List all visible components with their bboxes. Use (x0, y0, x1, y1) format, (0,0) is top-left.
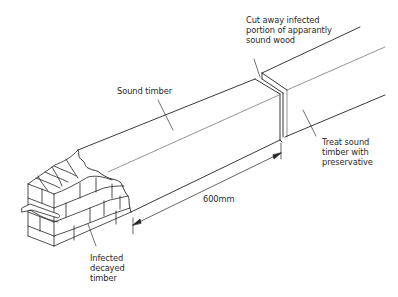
dimension-line (133, 143, 281, 234)
decay-ragged-edge (78, 150, 131, 212)
left-beam (78, 79, 282, 212)
label-infected-decayed: Infected decayed timber (90, 253, 125, 283)
label-dimension-600mm: 600mm (203, 194, 235, 204)
decayed-block (22, 150, 131, 246)
label-sound-timber: Sound timber (117, 86, 172, 96)
label-treat-preservative: Treat sound timber with preservative (322, 137, 373, 167)
label-cut-away: Cut away infected portion of apparantly … (246, 15, 332, 45)
